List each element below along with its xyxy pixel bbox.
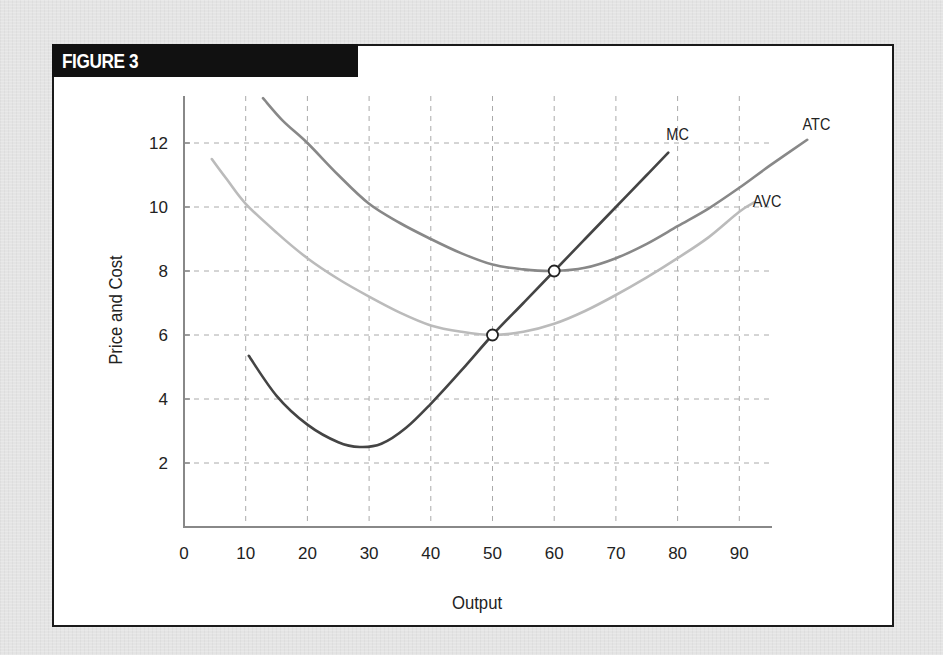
y-tick-label: 6: [159, 326, 168, 345]
axes: [183, 96, 772, 527]
x-tick-label: 20: [298, 544, 317, 563]
curve-label-mc: MC: [666, 125, 688, 143]
curves: [212, 98, 807, 447]
intersection-marker: [487, 330, 498, 341]
y-tick-label: 2: [159, 454, 168, 473]
grid-lines: [184, 96, 772, 527]
x-tick-label: 10: [236, 544, 255, 563]
x-tick-label: 40: [421, 544, 440, 563]
y-tick-label: 10: [149, 198, 168, 217]
curve-avc: [212, 159, 755, 335]
x-tick-labels: 0102030405060708090: [179, 544, 748, 563]
y-tick-label: 4: [159, 390, 168, 409]
curve-labels: MCATCAVC: [666, 115, 830, 210]
x-tick-label: 30: [360, 544, 379, 563]
x-tick-label: 50: [483, 544, 502, 563]
curve-atc: [263, 98, 807, 271]
intersection-marker: [549, 266, 560, 277]
x-tick-label: 0: [179, 544, 188, 563]
y-tick-labels: 24681012: [149, 134, 168, 473]
y-tick-label: 8: [159, 262, 168, 281]
y-tick-label: 12: [149, 134, 168, 153]
x-tick-label: 70: [606, 544, 625, 563]
curve-label-atc: ATC: [803, 115, 831, 133]
x-tick-label: 60: [545, 544, 564, 563]
x-axis-label: Output: [452, 592, 502, 613]
y-axis-label: Price and Cost: [105, 255, 126, 365]
curve-label-avc: AVC: [753, 192, 782, 210]
x-tick-label: 90: [730, 544, 749, 563]
x-tick-label: 80: [668, 544, 687, 563]
cost-curves-chart: 0102030405060708090 24681012 MCATCAVC Ou…: [0, 0, 943, 655]
